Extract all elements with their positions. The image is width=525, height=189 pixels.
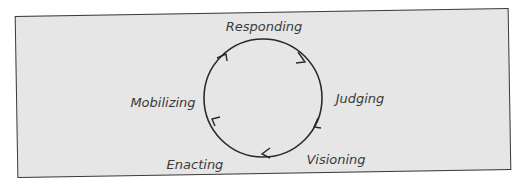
arrow-icon: [212, 117, 220, 126]
arrow-icon: [314, 118, 321, 128]
stage-judging: Judging: [333, 91, 385, 106]
stage-enacting: Enacting: [167, 157, 224, 172]
stage-mobilizing: Mobilizing: [130, 95, 195, 110]
stage-visioning: Visioning: [306, 152, 365, 167]
cycle-circle: [204, 39, 322, 157]
stage-responding: Responding: [226, 19, 303, 34]
arrow-icon: [296, 52, 305, 63]
cycle-diagram: Responding Judging Visioning Enacting Mo…: [0, 0, 525, 189]
arrowheads: [212, 52, 321, 158]
